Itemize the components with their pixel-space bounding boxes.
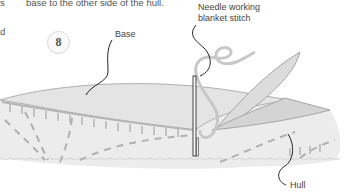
blanket-stitch-illustration xyxy=(0,0,345,192)
